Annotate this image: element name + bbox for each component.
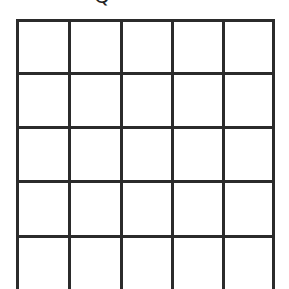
grid-line-horizontal	[16, 126, 274, 129]
empty-grid	[16, 19, 274, 289]
grid-line-vertical	[272, 19, 275, 289]
grid-line-horizontal	[16, 180, 274, 183]
grid-line-horizontal	[16, 235, 274, 238]
grid-line-vertical	[171, 19, 174, 289]
grid-line-vertical	[120, 19, 123, 289]
grid-line-horizontal	[16, 72, 274, 75]
grid-line-vertical	[222, 19, 225, 289]
grid-line-vertical	[68, 19, 71, 289]
grid-line-horizontal	[16, 19, 274, 22]
cropped-title-glyph: Q	[94, 0, 110, 6]
grid-line-vertical	[16, 19, 19, 289]
